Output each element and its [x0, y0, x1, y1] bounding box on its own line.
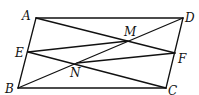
label-m: M [123, 25, 137, 39]
label-b: B [4, 82, 14, 95]
segment-nf [77, 53, 175, 63]
label-n: N [69, 66, 81, 80]
label-d: D [184, 11, 195, 25]
label-c: C [168, 84, 177, 95]
segment-em [28, 41, 128, 52]
label-a: A [21, 9, 31, 23]
geometry-figure: A D B C E F M N [0, 0, 199, 95]
segments [18, 18, 183, 88]
segment-bd [18, 18, 183, 88]
segment-af [36, 18, 175, 53]
label-e: E [14, 46, 24, 60]
segment-ec [28, 52, 166, 88]
label-f: F [177, 52, 187, 66]
